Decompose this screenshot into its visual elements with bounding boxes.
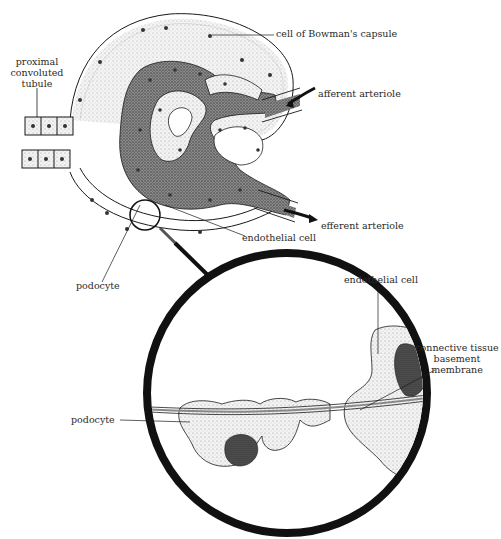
diagram-illustration [0,0,501,539]
renal-corpuscle-diagram: cell of Bowman's capsule proximal convol… [0,0,501,539]
proximal-tubule [22,88,73,168]
label-ct-line2: basement [412,353,501,364]
label-pct-line3: tubule [5,78,69,89]
magnify-region [130,200,160,230]
label-pct-line2: convoluted [5,67,69,78]
label-bowmans-capsule: cell of Bowman's capsule [276,28,397,39]
label-pct-line1: proximal [5,56,69,67]
label-ct-line3: membrane [412,364,501,375]
label-podocyte-glomerulus: podocyte [76,280,120,291]
label-afferent-arteriole: afferent arteriole [318,88,401,99]
label-endothelial-cell-detail: endothelial cell [344,274,418,285]
label-ct-line1: connective tissue [412,342,501,353]
label-proximal-convoluted-tubule: proximal convoluted tubule [5,56,69,89]
label-connective-tissue-basement-membrane: connective tissue basement membrane [412,342,501,375]
label-efferent-arteriole: efferent arteriole [321,220,404,231]
magnified-detail [120,253,450,533]
label-podocyte-detail: podocyte [71,414,115,425]
label-endothelial-cell-glomerulus: endothelial cell [242,232,316,243]
